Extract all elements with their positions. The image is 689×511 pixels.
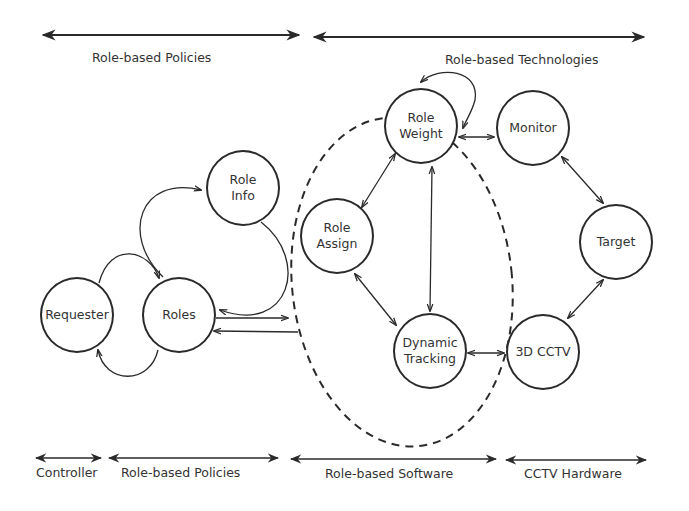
bottom-label-role-based-policies: Role-based Policies [121,465,240,480]
edge-role-info-to-roles [220,222,288,315]
edge-role-assign-dynamic-tracking [355,274,396,325]
edge-requester-to-roles [99,254,159,283]
node-dynamic-tracking: Dynamic Tracking [393,313,467,389]
node-role-assign: Role Assign [300,198,374,274]
node-role-weight: Role Weight [384,88,458,164]
edge-monitor-target [562,157,603,203]
bottom-label-role-based-software: Role-based Software [325,466,453,481]
node-monitor-label: Monitor [509,120,557,136]
edge-roles-to-role-info [140,188,201,277]
node-requester-label: Requester [45,307,109,323]
node-role-assign-label: Role Assign [317,220,358,252]
top-label-role-based-policies: Role-based Policies [92,50,211,65]
edge-role-weight-dynamic-tracking [430,167,432,311]
edge-target-3d-cctv [568,280,603,318]
bottom-label-cctv-hardware: CCTV Hardware [524,466,622,481]
node-dynamic-tracking-label: Dynamic Tracking [402,335,457,367]
edge-roles-to-requester [98,350,158,376]
node-requester: Requester [40,277,114,353]
top-label-role-based-technologies: Role-based Technologies [445,52,598,67]
node-roles: Roles [142,277,216,353]
node-role-weight-label: Role Weight [399,110,443,142]
node-monitor: Monitor [496,90,570,166]
node-3d-cctv: 3D CCTV [506,314,580,390]
edge-role-weight-role-assign [362,154,395,207]
node-role-info: Role Info [206,150,280,226]
node-role-info-label: Role Info [230,172,257,204]
edge-software-to-roles [214,331,298,332]
node-roles-label: Roles [162,307,195,323]
bottom-label-controller: Controller [36,465,98,480]
node-3d-cctv-label: 3D CCTV [515,344,570,360]
node-target-label: Target [597,234,636,250]
node-target: Target [579,204,653,280]
